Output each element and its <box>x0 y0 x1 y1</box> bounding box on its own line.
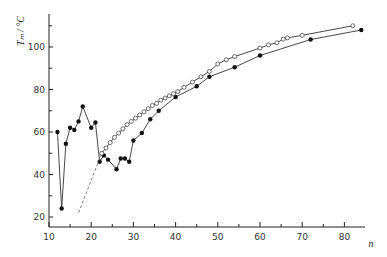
y-tick-label: 80 <box>34 85 46 95</box>
data-point-filled <box>148 117 152 121</box>
x-tick-label: 60 <box>254 232 266 242</box>
y-tick-label: 40 <box>34 170 46 180</box>
data-point-open <box>176 90 180 94</box>
data-point-filled <box>119 156 123 160</box>
data-point-filled <box>359 28 363 32</box>
y-tick-label: 60 <box>34 127 46 137</box>
x-tick-label: 10 <box>43 232 55 242</box>
data-point-filled <box>195 84 199 88</box>
data-point-filled <box>55 130 59 134</box>
data-point-filled <box>258 53 262 57</box>
data-point-open <box>199 75 203 79</box>
y-tick-label: 20 <box>34 212 46 222</box>
data-point-open <box>233 55 237 59</box>
data-point-filled <box>89 126 93 130</box>
data-point-open <box>163 96 167 100</box>
chart-canvas: 204060801001020304050607080nTₘ / °C <box>0 0 387 257</box>
x-tick-label: 20 <box>85 232 97 242</box>
data-point-open <box>112 135 116 139</box>
data-point-open <box>134 116 138 120</box>
data-point-open <box>351 24 355 28</box>
data-point-open <box>155 101 159 105</box>
data-point-filled <box>114 167 118 171</box>
data-point-filled <box>64 141 68 145</box>
data-point-filled <box>72 128 76 132</box>
data-point-open <box>142 110 146 114</box>
data-point-filled <box>123 156 127 160</box>
data-point-filled <box>97 160 101 164</box>
data-point-filled <box>207 75 211 79</box>
data-point-open <box>117 131 121 135</box>
data-point-open <box>258 46 262 50</box>
data-point-open <box>138 113 142 117</box>
data-point-filled <box>127 160 131 164</box>
data-point-open <box>125 123 129 127</box>
data-point-open <box>216 62 220 66</box>
data-point-open <box>266 43 270 47</box>
data-point-filled <box>93 120 97 124</box>
data-point-open <box>121 127 125 131</box>
series-filled <box>55 28 363 211</box>
data-point-open <box>108 141 112 145</box>
x-tick-label: 30 <box>128 232 140 242</box>
data-point-open <box>224 58 228 62</box>
x-axis-label: n <box>369 238 374 249</box>
data-point-filled <box>81 104 85 108</box>
data-point-open <box>207 69 211 73</box>
data-point-open <box>300 33 304 37</box>
data-point-filled <box>157 109 161 113</box>
series-open <box>79 24 355 213</box>
data-point-open <box>129 119 133 123</box>
y-tick-label: 100 <box>28 42 45 52</box>
data-point-open <box>100 151 104 155</box>
x-tick-label: 50 <box>212 232 224 242</box>
plot-area <box>55 24 363 213</box>
data-point-filled <box>106 157 110 161</box>
data-point-open <box>167 94 171 98</box>
data-point-open <box>281 37 285 41</box>
data-point-filled <box>140 131 144 135</box>
data-point-open <box>159 98 163 102</box>
y-axis-label: Tₘ / °C <box>15 16 26 46</box>
data-point-filled <box>131 138 135 142</box>
x-tick-label: 70 <box>296 232 308 242</box>
data-point-filled <box>232 65 236 69</box>
data-point-open <box>190 80 194 84</box>
data-point-filled <box>59 206 63 210</box>
data-point-open <box>275 41 279 45</box>
data-point-open <box>104 146 108 150</box>
x-tick-label: 40 <box>170 232 182 242</box>
data-point-filled <box>76 119 80 123</box>
data-point-open <box>146 107 150 111</box>
data-point-filled <box>68 126 72 130</box>
series-line <box>102 26 353 154</box>
data-point-open <box>150 103 154 107</box>
data-point-filled <box>308 37 312 41</box>
data-point-open <box>171 92 175 96</box>
data-point-open <box>182 85 186 89</box>
x-tick-label: 80 <box>339 232 351 242</box>
data-point-open <box>285 36 289 40</box>
series-line <box>57 30 361 209</box>
